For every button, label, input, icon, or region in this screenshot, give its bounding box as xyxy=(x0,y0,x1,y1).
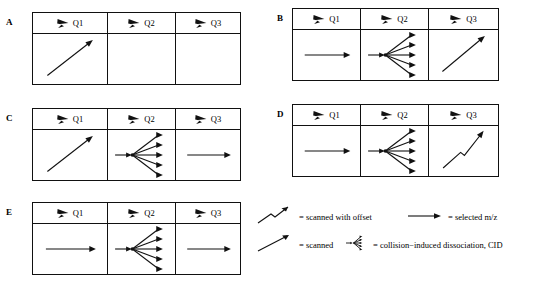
quadrupole-mode-cell-q3-selected xyxy=(176,130,241,181)
quadrupole-label: Q2 xyxy=(397,14,407,24)
quadrupole-header-cell-q2: Q2 xyxy=(361,105,429,126)
cid-fan-icon xyxy=(361,126,428,176)
quadrupole-mode-cell-q3-empty xyxy=(176,34,241,85)
quadrupole-mode-cell-q2-cid xyxy=(108,224,176,275)
chevron-arrowhead-icon xyxy=(128,114,141,125)
quadrupole-header-row: Q1Q2Q3 xyxy=(293,9,499,30)
zigzag-diagonal-arrow-icon xyxy=(255,204,295,230)
panel-a-q1-scan: Q1Q2Q3 xyxy=(32,12,241,85)
chevron-arrowhead-icon xyxy=(450,14,463,25)
quadrupole-header-cell-q2: Q2 xyxy=(108,109,176,130)
chevron-arrowhead-icon xyxy=(195,208,208,219)
quadrupole-header-cell-q1: Q1 xyxy=(293,9,361,30)
quadrupole-mode-cell-q2-empty xyxy=(108,34,176,85)
quadrupole-label: Q1 xyxy=(73,208,83,218)
quadrupole-header-row: Q1Q2Q3 xyxy=(293,105,499,126)
quadrupole-header-cell-q3: Q3 xyxy=(176,109,241,130)
legend-entry-scanned-with-offset: = scanned with offset xyxy=(255,204,372,230)
quadrupole-mode-cell-q2-cid xyxy=(108,130,176,181)
cid-fan-icon xyxy=(361,30,428,80)
horizontal-arrow-icon xyxy=(33,224,107,274)
quadrupole-label: Q3 xyxy=(466,110,476,120)
quadrupole-mode-cell-q3-scanned xyxy=(429,30,499,81)
legend-label: = scanned with offset xyxy=(299,212,372,222)
quadrupole-table: Q1Q2Q3 xyxy=(32,202,241,275)
chevron-arrowhead-icon xyxy=(195,18,208,29)
panel-d-neutral-loss-scan: Q1Q2Q3 xyxy=(292,104,499,177)
empty-cell xyxy=(176,34,240,84)
quadrupole-header-row: Q1Q2Q3 xyxy=(33,13,241,34)
legend-label: = selected m/z xyxy=(448,212,497,222)
chevron-arrowhead-icon xyxy=(313,110,326,121)
quadrupole-label: Q1 xyxy=(73,18,83,28)
chevron-arrowhead-icon xyxy=(128,208,141,219)
quadrupole-header-cell-q3: Q3 xyxy=(429,9,499,30)
quadrupole-label: Q3 xyxy=(211,18,221,28)
quadrupole-label: Q2 xyxy=(397,110,407,120)
horizontal-arrow-icon xyxy=(407,208,444,226)
quadrupole-label: Q3 xyxy=(466,14,476,24)
quadrupole-label: Q2 xyxy=(144,208,154,218)
chevron-arrowhead-icon xyxy=(381,110,394,121)
quadrupole-mode-row xyxy=(33,34,241,85)
quadrupole-header-cell-q3: Q3 xyxy=(176,203,241,224)
diagonal-arrow-icon xyxy=(429,30,498,80)
cid-fan-icon xyxy=(108,130,175,180)
panel-letter-a: A xyxy=(6,18,13,27)
legend-label: = scanned xyxy=(299,240,333,250)
horizontal-arrow-icon xyxy=(176,224,240,274)
panel-e-selected-reaction-monitoring: Q1Q2Q3 xyxy=(32,202,241,275)
cid-fan-icon xyxy=(108,224,175,274)
quadrupole-table: Q1Q2Q3 xyxy=(32,12,241,85)
quadrupole-header-cell-q3: Q3 xyxy=(176,13,241,34)
quadrupole-header-cell-q1: Q1 xyxy=(33,109,108,130)
quadrupole-label: Q3 xyxy=(211,114,221,124)
quadrupole-mode-cell-q2-cid xyxy=(361,126,429,177)
quadrupole-header-cell-q2: Q2 xyxy=(108,13,176,34)
chevron-arrowhead-icon xyxy=(381,14,394,25)
quadrupole-label: Q3 xyxy=(211,208,221,218)
quadrupole-table: Q1Q2Q3 xyxy=(32,108,241,181)
quadrupole-label: Q2 xyxy=(144,114,154,124)
quadrupole-label: Q1 xyxy=(329,110,339,120)
panel-c-precursor-ion-scan: Q1Q2Q3 xyxy=(32,108,241,181)
chevron-arrowhead-icon xyxy=(450,110,463,121)
quadrupole-label: Q2 xyxy=(144,18,154,28)
quadrupole-mode-cell-q1-selected xyxy=(33,224,108,275)
empty-cell xyxy=(108,34,175,84)
legend-entry-selected-mz: = selected m/z xyxy=(407,208,497,226)
quadrupole-label: Q1 xyxy=(73,114,83,124)
diagonal-arrow-icon xyxy=(33,34,107,84)
quadrupole-header-cell-q1: Q1 xyxy=(293,105,361,126)
quadrupole-header-cell-q1: Q1 xyxy=(33,203,108,224)
quadrupole-label: Q1 xyxy=(329,14,339,24)
panel-letter-d: D xyxy=(277,110,284,119)
chevron-arrowhead-icon xyxy=(195,114,208,125)
quadrupole-header-row: Q1Q2Q3 xyxy=(33,203,241,224)
quadrupole-mode-cell-q1-scanned xyxy=(33,130,108,181)
quadrupole-table: Q1Q2Q3 xyxy=(292,8,499,81)
diagonal-arrow-icon xyxy=(255,232,295,258)
legend: = scanned with offset = selected m/z = s… xyxy=(255,200,538,262)
diagonal-arrow-icon xyxy=(33,130,107,180)
quadrupole-mode-cell-q1-selected xyxy=(293,126,361,177)
cid-fan-icon xyxy=(345,234,369,256)
chevron-arrowhead-icon xyxy=(57,114,70,125)
quadrupole-mode-cell-q2-cid xyxy=(361,30,429,81)
chevron-arrowhead-icon xyxy=(57,208,70,219)
quadrupole-header-row: Q1Q2Q3 xyxy=(33,109,241,130)
quadrupole-header-cell-q2: Q2 xyxy=(108,203,176,224)
quadrupole-mode-row xyxy=(293,126,499,177)
quadrupole-mode-row xyxy=(33,130,241,181)
quadrupole-header-cell-q1: Q1 xyxy=(33,13,108,34)
chevron-arrowhead-icon xyxy=(128,18,141,29)
horizontal-arrow-icon xyxy=(293,30,360,80)
legend-entry-scanned: = scanned xyxy=(255,232,333,258)
quadrupole-mode-cell-q1-scanned xyxy=(33,34,108,85)
quadrupole-mode-cell-q3-selected xyxy=(176,224,241,275)
quadrupole-mode-row xyxy=(293,30,499,81)
quadrupole-table: Q1Q2Q3 xyxy=(292,104,499,177)
panel-letter-c: C xyxy=(6,114,13,123)
quadrupole-mode-row xyxy=(33,224,241,275)
legend-label: = collision−induced dissociation, CID xyxy=(373,240,503,250)
